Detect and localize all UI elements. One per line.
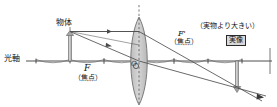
optics-ray-diagram-figure: 光軸 物体 F （焦点） F' （焦点） O （実物より大きい） 実像: [0, 0, 277, 107]
focus-left-label: F: [84, 64, 90, 73]
focus-left-sublabel: （焦点）: [74, 74, 102, 82]
image-type-badge: 実像: [226, 35, 246, 46]
object-label: 物体: [56, 18, 72, 27]
optical-axis-label: 光軸: [4, 54, 20, 63]
object-arrow-shaft: [68, 34, 71, 61]
focus-right-sublabel: （焦点）: [170, 38, 198, 46]
ray2-refracted-segment: [139, 61, 266, 96]
object-arrow-group: [66, 31, 73, 62]
ray1-incident-arrowhead: [107, 29, 112, 33]
convex-lens-group: [131, 5, 148, 105]
focus-right-label: F': [178, 29, 186, 38]
ray2-incident-segment: [70, 32, 139, 62]
lens-center-label: O: [131, 60, 137, 69]
ray3-incident-segment: [70, 32, 139, 46]
image-size-note-label: （実物より大きい）: [196, 22, 259, 30]
ray-diagram-canvas: [0, 0, 277, 107]
image-arrow-shaft: [235, 61, 238, 88]
ray2-incident-arrowhead: [106, 43, 112, 47]
